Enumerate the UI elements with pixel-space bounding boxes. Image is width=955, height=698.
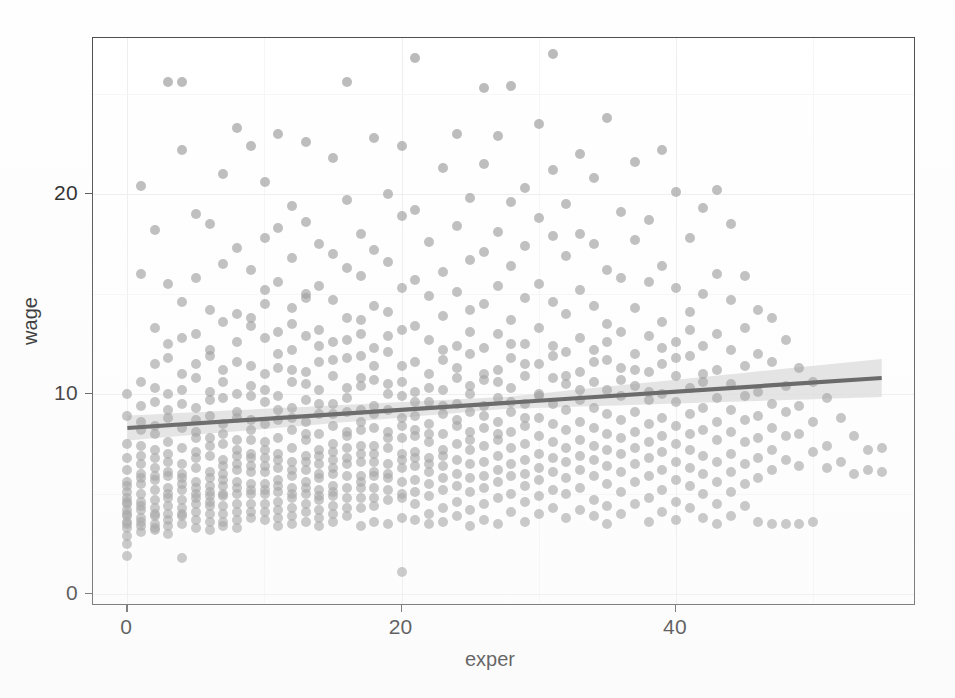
y-axis-title: wage (19, 297, 42, 345)
plot-panel-inner (93, 38, 914, 604)
scatter-plot-figure: 02040 01020 exper wage (0, 0, 955, 698)
y-tick-label: 20 (54, 181, 78, 205)
x-tick-label: 20 (389, 615, 413, 639)
y-tick-mark (85, 393, 92, 394)
x-tick-mark (401, 605, 402, 612)
x-tick-label: 40 (663, 615, 687, 639)
y-tick-label: 0 (66, 581, 78, 605)
x-tick-label: 0 (120, 615, 132, 639)
y-tick-mark (85, 593, 92, 594)
x-axis-title: exper (465, 648, 515, 671)
y-tick-label: 10 (54, 381, 78, 405)
plot-panel (92, 37, 915, 605)
x-tick-mark (126, 605, 127, 612)
x-tick-mark (675, 605, 676, 612)
y-tick-mark (85, 193, 92, 194)
regression-line (93, 38, 914, 604)
